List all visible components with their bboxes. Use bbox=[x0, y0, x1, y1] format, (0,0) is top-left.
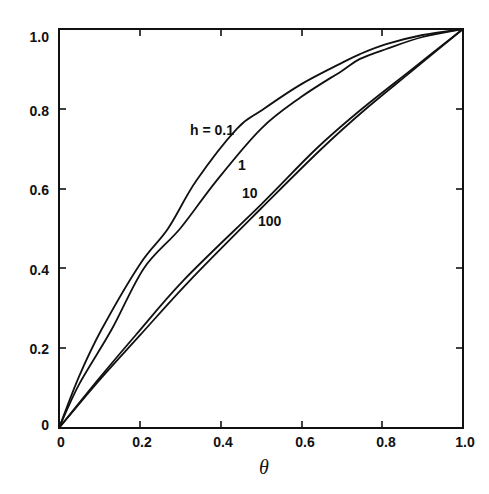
x-tick-label: 0 bbox=[57, 434, 65, 450]
curve-label-h-100: 100 bbox=[258, 213, 282, 229]
y-tick-label: 0.8 bbox=[30, 103, 50, 119]
y-tick-label: 1.0 bbox=[30, 29, 50, 45]
curve-label-h-1: 1 bbox=[238, 157, 246, 173]
x-tick-label: 0.4 bbox=[213, 434, 233, 450]
curve-label-h-10: 10 bbox=[242, 185, 258, 201]
chart: 0 0.2 0.4 0.6 0.8 1.0 0 0.2 0.4 0.6 0.8 … bbox=[0, 0, 489, 494]
x-tick-label: 1.0 bbox=[455, 434, 475, 450]
x-axis-title: θ bbox=[259, 456, 269, 478]
y-tick-label: 0.6 bbox=[30, 182, 50, 198]
y-tick-label: 0.4 bbox=[30, 262, 50, 278]
curve-label-h-0-1: h = 0.1 bbox=[190, 122, 234, 138]
x-tick-label: 0.6 bbox=[295, 434, 315, 450]
x-tick-label: 0.8 bbox=[376, 434, 396, 450]
x-tick-label: 0.2 bbox=[132, 434, 152, 450]
y-tick-label: 0 bbox=[41, 417, 49, 433]
y-tick-labels: 0 0.2 0.4 0.6 0.8 1.0 bbox=[30, 29, 50, 433]
x-tick-labels: 0 0.2 0.4 0.6 0.8 1.0 bbox=[57, 434, 475, 450]
y-tick-label: 0.2 bbox=[30, 341, 50, 357]
